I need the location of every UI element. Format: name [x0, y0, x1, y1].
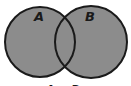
venn-diagram: A B A ∪ B	[0, 0, 131, 86]
set-a-label: A	[33, 9, 44, 24]
union-caption: A ∪ B	[45, 83, 80, 86]
set-b-label: B	[85, 9, 95, 24]
